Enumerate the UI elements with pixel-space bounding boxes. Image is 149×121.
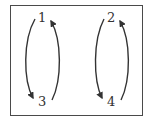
node-4-label: 4 xyxy=(107,95,115,108)
node-3-label: 3 xyxy=(38,95,46,108)
arrow-2-to-4 xyxy=(95,19,104,98)
node-1-label: 1 xyxy=(38,11,46,24)
cycle-arrows xyxy=(0,0,149,121)
arrow-1-to-3 xyxy=(26,19,35,98)
arrow-4-to-2 xyxy=(120,21,128,100)
arrow-3-to-1 xyxy=(51,21,59,100)
node-2-label: 2 xyxy=(107,11,115,24)
